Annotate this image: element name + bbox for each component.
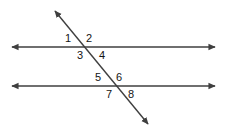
angle-label-2: 2 [82, 33, 96, 44]
angle-label-7: 7 [102, 89, 116, 100]
angle-label-4: 4 [95, 50, 109, 61]
angle-label-5: 5 [91, 72, 105, 83]
geometry-diagram-svg [0, 0, 228, 136]
angle-label-3: 3 [73, 50, 87, 61]
angle-label-6: 6 [112, 72, 126, 83]
angle-label-1: 1 [61, 33, 75, 44]
geometry-figure: 1 2 3 4 5 6 7 8 [0, 0, 228, 136]
transversal-line [55, 11, 148, 124]
angle-label-8: 8 [124, 89, 138, 100]
line-layer [12, 11, 215, 124]
